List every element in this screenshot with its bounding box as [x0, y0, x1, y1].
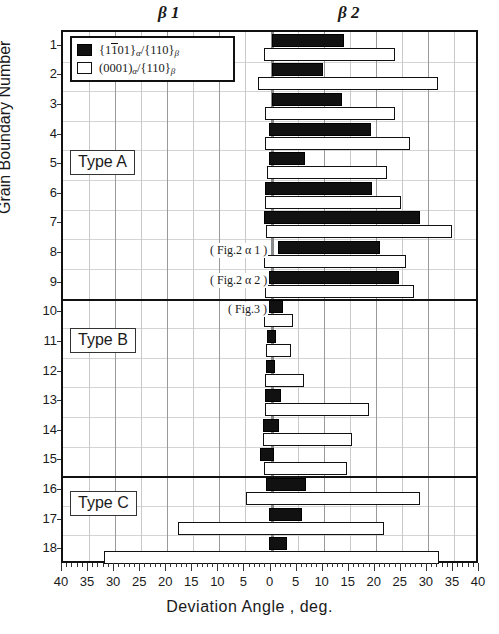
x-tick-mark	[207, 563, 208, 567]
x-tick-mark	[353, 563, 354, 567]
bar-open-row-11	[266, 344, 291, 357]
gridline-vertical	[89, 32, 90, 561]
legend-item-open: (0001)α/{110}β	[77, 59, 228, 77]
bar-filled-row-16	[266, 478, 306, 491]
gridline-horizontal	[63, 239, 476, 240]
x-tick-mark	[87, 563, 88, 571]
x-tick-mark	[243, 563, 244, 571]
y-tick-label: 14	[35, 423, 57, 436]
x-tick-mark	[363, 563, 364, 567]
type-label-b: Type B	[70, 328, 136, 353]
x-tick-mark	[384, 563, 385, 567]
bar-filled-row-1	[272, 34, 345, 47]
x-tick-mark	[457, 563, 458, 567]
bar-filled-row-12	[266, 360, 274, 373]
gridline-vertical	[219, 32, 220, 561]
bar-open-row-4	[265, 137, 409, 150]
x-tick-mark	[426, 563, 427, 571]
y-tick-label: 10	[35, 304, 57, 317]
y-tick-label: 5	[35, 156, 57, 169]
x-tick-mark	[176, 563, 177, 567]
x-tick-mark	[77, 563, 78, 567]
x-tick-mark	[97, 563, 98, 567]
x-tick-mark	[306, 563, 307, 567]
x-tick-mark	[348, 563, 349, 571]
x-tick-mark	[61, 563, 62, 571]
x-tick-mark	[280, 563, 281, 567]
y-tick-label: 17	[35, 512, 57, 525]
x-axis-title: Deviation Angle , deg.	[0, 598, 499, 616]
x-tick-mark	[118, 563, 119, 567]
x-tick-mark	[285, 563, 286, 567]
bar-filled-row-18	[269, 537, 286, 550]
x-tick-mark	[311, 563, 312, 567]
x-tick-label: 40	[463, 574, 493, 589]
x-tick-mark	[369, 563, 370, 567]
x-tick-mark	[405, 563, 406, 567]
bar-filled-row-7	[264, 211, 420, 224]
y-tick-label: 6	[35, 186, 57, 199]
x-tick-mark	[144, 563, 145, 567]
open-square-icon	[77, 62, 92, 74]
x-tick-mark	[358, 563, 359, 567]
bar-open-row-17	[178, 522, 384, 535]
gridline-vertical	[167, 32, 168, 561]
x-tick-mark	[447, 563, 448, 567]
x-tick-mark	[254, 563, 255, 567]
bar-filled-row-5	[269, 152, 305, 165]
x-tick-mark	[124, 563, 125, 567]
bar-filled-row-14	[263, 419, 280, 432]
x-tick-mark	[92, 563, 93, 567]
y-tick-label: 18	[35, 541, 57, 554]
x-tick-mark	[468, 563, 469, 567]
type-label-a: Type A	[70, 150, 135, 175]
x-tick-mark	[342, 563, 343, 567]
x-tick-mark	[155, 563, 156, 567]
x-tick-mark	[332, 563, 333, 567]
bar-filled-row-13	[265, 389, 282, 402]
x-tick-mark	[462, 563, 463, 567]
bar-open-row-12	[265, 374, 304, 387]
bar-open-row-15	[264, 462, 347, 475]
x-tick-mark	[400, 563, 401, 571]
figure-annotation: ( Fig.2 α 1 )	[209, 243, 268, 258]
x-tick-mark	[66, 563, 67, 567]
y-tick-label: 2	[35, 67, 57, 80]
x-tick-mark	[150, 563, 151, 567]
x-tick-mark	[478, 563, 479, 571]
beta2-axis-label: β 2	[338, 3, 359, 23]
x-tick-mark	[249, 563, 250, 567]
bar-open-row-14	[263, 433, 352, 446]
x-tick-mark	[170, 563, 171, 567]
x-tick-mark	[233, 563, 234, 567]
gridline-vertical	[115, 32, 116, 561]
x-tick-mark	[290, 563, 291, 567]
x-tick-mark	[270, 563, 271, 571]
x-tick-mark	[301, 563, 302, 567]
x-tick-mark	[217, 563, 218, 571]
bar-open-row-3	[265, 107, 395, 120]
x-tick-mark	[436, 563, 437, 567]
bar-open-row-5	[267, 166, 386, 179]
bar-open-row-9	[265, 285, 414, 298]
bar-filled-row-15	[260, 448, 274, 461]
bar-open-row-8	[264, 255, 407, 268]
y-tick-label: 4	[35, 127, 57, 140]
y-tick-label: 16	[35, 482, 57, 495]
x-tick-mark	[129, 563, 130, 567]
x-tick-mark	[275, 563, 276, 567]
bar-open-row-6	[265, 196, 402, 209]
bar-open-row-13	[265, 403, 370, 416]
x-tick-mark	[296, 563, 297, 571]
x-tick-mark	[108, 563, 109, 567]
y-tick-label: 3	[35, 97, 57, 110]
bar-filled-row-10	[269, 300, 283, 313]
gridline-vertical	[454, 32, 455, 561]
gridline-vertical	[193, 32, 194, 561]
x-tick-mark	[186, 563, 187, 567]
y-axis-tick-labels: 123456789101112131415161718	[31, 30, 57, 563]
x-tick-mark	[197, 563, 198, 567]
legend-item-filled: {1101}α/{110}β	[77, 41, 228, 59]
x-tick-mark	[395, 563, 396, 567]
chart-bars-layer	[63, 32, 476, 561]
